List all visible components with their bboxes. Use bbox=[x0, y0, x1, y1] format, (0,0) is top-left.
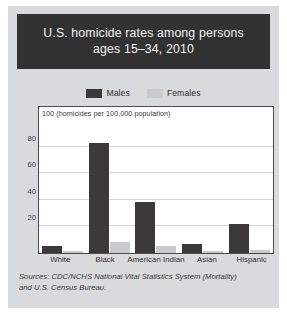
y-tick-label: 80 bbox=[28, 133, 36, 142]
legend-label-females: Females bbox=[167, 88, 201, 98]
bar-group bbox=[39, 120, 86, 253]
y-axis-unit-label: 100 (homicides per 100,000 population) bbox=[42, 109, 171, 118]
legend-swatch-males bbox=[86, 89, 102, 98]
bar-groups bbox=[39, 120, 273, 253]
y-tick-label: 40 bbox=[28, 186, 36, 195]
bar-males-hispanic bbox=[229, 224, 249, 253]
source-note: Sources: CDC/NCHS National Vital Statist… bbox=[19, 272, 271, 293]
bar-group bbox=[179, 120, 226, 253]
bar-group bbox=[86, 120, 133, 253]
legend-swatch-females bbox=[147, 89, 163, 98]
title-banner: U.S. homicide rates among persons ages 1… bbox=[17, 14, 270, 69]
x-axis-label: American Indian bbox=[127, 255, 184, 264]
bar-males-black bbox=[89, 143, 109, 253]
bar-females-black bbox=[110, 242, 130, 253]
x-axis-label: Black bbox=[83, 255, 128, 264]
bar-females-hispanic bbox=[250, 250, 270, 253]
bar-males-white bbox=[42, 246, 62, 253]
bar-males-american-indian bbox=[135, 202, 155, 253]
x-axis-labels: WhiteBlackAmerican IndianAsianHispanic bbox=[38, 255, 274, 264]
y-tick-label: 60 bbox=[28, 160, 36, 169]
x-axis-label: Asian bbox=[185, 255, 230, 264]
x-axis-label: Hispanic bbox=[229, 255, 274, 264]
chart-legend: Males Females bbox=[17, 85, 270, 101]
bar-females-white bbox=[63, 251, 83, 253]
bar-females-american-indian bbox=[156, 246, 176, 253]
bar-group bbox=[226, 120, 273, 253]
legend-entry-males: Males bbox=[86, 88, 129, 98]
bar-group bbox=[133, 120, 180, 253]
page-title: U.S. homicide rates among persons ages 1… bbox=[43, 26, 243, 57]
x-axis-label: White bbox=[38, 255, 83, 264]
legend-entry-females: Females bbox=[147, 88, 201, 98]
bar-males-asian bbox=[182, 244, 202, 253]
bar-females-asian bbox=[203, 251, 223, 253]
y-tick-label: 20 bbox=[28, 213, 36, 222]
chart-card: U.S. homicide rates among persons ages 1… bbox=[8, 6, 279, 308]
plot-frame: 100 (homicides per 100,000 population) 2… bbox=[38, 106, 274, 254]
legend-label-males: Males bbox=[106, 88, 129, 98]
